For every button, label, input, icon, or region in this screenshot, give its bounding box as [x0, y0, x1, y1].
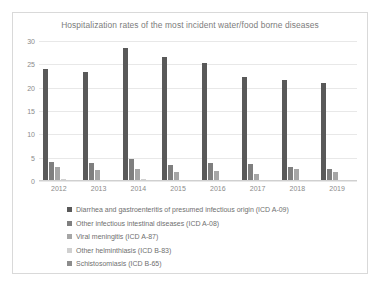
bar — [129, 159, 134, 181]
bar-group — [198, 41, 238, 181]
legend-swatch-icon — [67, 234, 72, 239]
bar — [83, 72, 88, 181]
legend-swatch-icon — [67, 248, 72, 253]
legend-item-label: Schistosomiasis (ICD B-65) — [76, 260, 162, 267]
legend-item[interactable]: Viral meningitis (ICD A-87) — [67, 230, 357, 244]
bar-group — [79, 41, 119, 181]
bar — [89, 163, 94, 181]
bar-group — [39, 41, 79, 181]
chart-title: Hospitalization rates of the most incide… — [13, 20, 367, 30]
x-axis-tick-label: 2016 — [198, 185, 238, 192]
y-axis-tick-label: 25 — [27, 61, 35, 68]
legend-swatch-icon — [67, 221, 72, 226]
x-axis-tick-label: 2014 — [119, 185, 159, 192]
bar — [288, 167, 293, 181]
legend-item-label: Diarrhea and gastroenteritis of presumed… — [76, 206, 289, 213]
y-axis-tick-label: 20 — [27, 84, 35, 91]
y-axis-tick-label: 15 — [27, 108, 35, 115]
legend-item[interactable]: Diarrhea and gastroenteritis of presumed… — [67, 203, 357, 217]
bar-groups — [39, 41, 357, 181]
bar — [202, 63, 207, 181]
bar — [43, 69, 48, 181]
x-axis-tick-label: 2012 — [39, 185, 79, 192]
bar — [55, 167, 60, 181]
bar — [282, 80, 287, 181]
bar — [208, 163, 213, 181]
bar-group — [317, 41, 357, 181]
bar — [49, 162, 54, 181]
y-axis-tick-label: 10 — [27, 131, 35, 138]
bar — [321, 83, 326, 181]
x-axis-tick-label: 2013 — [79, 185, 119, 192]
bar-group — [158, 41, 198, 181]
y-axis-tick-label: 5 — [31, 154, 35, 161]
bar — [168, 165, 173, 181]
plot-area: 051015202530 — [39, 41, 357, 181]
legend-item-label: Viral meningitis (ICD A-87) — [76, 233, 158, 240]
x-axis-labels: 20122013201420152016201720182019 — [39, 185, 357, 192]
bar — [162, 57, 167, 181]
bar-group — [238, 41, 278, 181]
x-axis-tick-label: 2019 — [317, 185, 357, 192]
gridline — [39, 181, 357, 182]
legend-item[interactable]: Other helminthiasis (ICD B-83) — [67, 244, 357, 258]
x-axis-tick-label: 2015 — [158, 185, 198, 192]
legend-item[interactable]: Other infectious intestinal diseases (IC… — [67, 217, 357, 231]
legend-item[interactable]: Schistosomiasis (ICD B-65) — [67, 257, 357, 271]
x-axis-tick-label: 2018 — [278, 185, 318, 192]
bar-group — [119, 41, 159, 181]
legend-swatch-icon — [67, 207, 72, 212]
bar — [242, 77, 247, 181]
x-axis-tick-label: 2017 — [238, 185, 278, 192]
chart-card: Hospitalization rates of the most incide… — [12, 12, 368, 274]
bar-group — [278, 41, 318, 181]
legend-item-label: Other helminthiasis (ICD B-83) — [76, 247, 171, 254]
axis-baseline — [39, 180, 357, 181]
legend-swatch-icon — [67, 261, 72, 266]
y-axis-tick-label: 0 — [31, 178, 35, 185]
y-axis-tick-label: 30 — [27, 38, 35, 45]
legend-item-label: Other infectious intestinal diseases (IC… — [76, 220, 219, 227]
chart-legend: Diarrhea and gastroenteritis of presumed… — [67, 203, 357, 271]
bar — [123, 48, 128, 181]
bar — [248, 164, 253, 181]
